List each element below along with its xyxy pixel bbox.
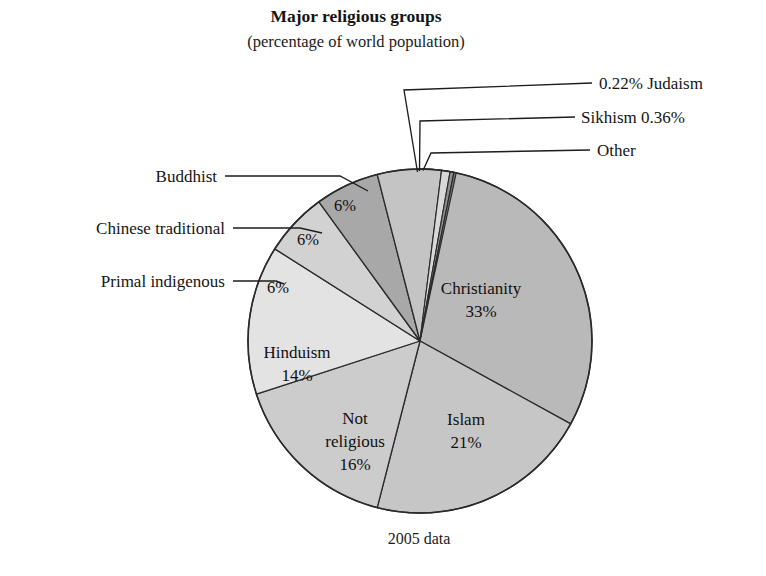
slice-value-chinese-traditional: 6%: [297, 230, 319, 249]
chart-footer-caption: 2005 data: [388, 530, 451, 547]
slice-value-christianity: 33%: [465, 302, 496, 321]
slice-label-christianity: Christianity: [441, 279, 522, 298]
slice-value-notreligious: 16%: [339, 455, 370, 474]
slice-value-primal-indigenous: 6%: [267, 278, 289, 297]
slice-value-islam: 21%: [450, 433, 481, 452]
leader-line-judaism: [404, 83, 592, 172]
slice-label-hinduism: Hinduism: [263, 343, 330, 362]
slice-label-islam: Islam: [447, 410, 485, 429]
leader-line-sikhism: [420, 117, 576, 171]
chart-subtitle: (percentage of world population): [247, 32, 465, 51]
pie-chart-figure: Major religious groups (percentage of wo…: [0, 0, 766, 576]
callout-label-chinese-traditional: Chinese traditional: [96, 219, 225, 238]
slice-label-notreligious-line2: religious: [325, 432, 385, 451]
callout-label-primal-indigenous: Primal indigenous: [101, 272, 225, 291]
callout-label-other: Other: [597, 141, 636, 160]
chart-title: Major religious groups: [270, 6, 441, 26]
slice-label-notreligious-line1: Not: [342, 409, 368, 428]
pie-wedges-group: Christianity 33%Islam 21%Not religious 1…: [248, 169, 592, 513]
chart-canvas: Major religious groups (percentage of wo…: [0, 0, 766, 576]
slice-value-hinduism: 14%: [281, 366, 312, 385]
callout-leaders-right: [404, 83, 592, 172]
callout-label-buddhist: Buddhist: [156, 167, 218, 186]
callout-label-judaism: 0.22% Judaism: [599, 74, 703, 93]
callout-label-sikhism: Sikhism 0.36%: [581, 108, 685, 127]
slice-value-buddhist: 6%: [334, 196, 356, 215]
leader-line-other: [423, 150, 590, 171]
